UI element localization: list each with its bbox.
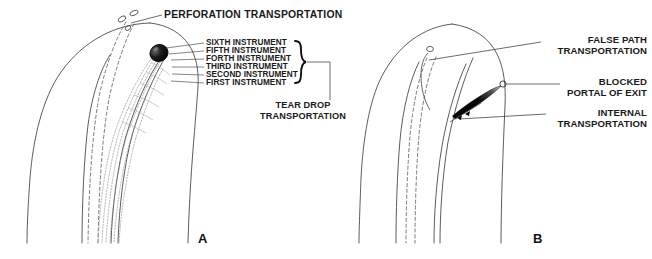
leader-line-perforation [131,15,162,23]
label-blocked-portal-line2: PORTAL OF EXIT [455,87,647,98]
false-path-branch [421,46,433,110]
label-internal-transportation-line1: INTERNAL [455,107,647,118]
panel-b-tooth-outline [359,24,505,243]
panel-letter-b: B [533,231,542,246]
label-internal-transportation-line2: TRANSPORTATION [455,118,647,129]
tear-drop-transportation-blob [147,42,171,65]
label-blocked-portal-line1: BLOCKED [455,76,647,87]
panel-letter-a: A [198,231,207,246]
label-tear-drop-line1: TEAR DROP [253,100,353,111]
figure-canvas: PERFORATION TRANSPORTATION SIXTH INSTRUM… [0,0,652,259]
instrument-tip-arcs [122,63,170,133]
label-perforation-transportation: PERFORATION TRANSPORTATION [164,10,342,21]
label-false-path-line1: FALSE PATH [455,34,647,45]
leader-line-tear-drop [307,62,330,100]
label-false-path-line2: TRANSPORTATION [455,45,647,56]
label-tear-drop-line2: TRANSPORTATION [243,111,363,122]
instrument-label-first: FIRST INSTRUMENT [206,78,286,87]
